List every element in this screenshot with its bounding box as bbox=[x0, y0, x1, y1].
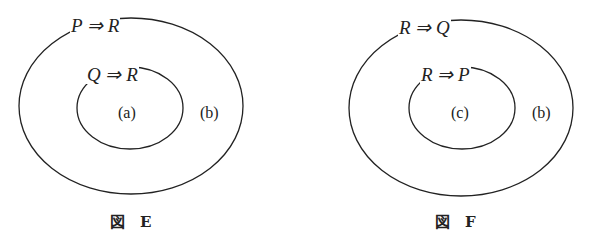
diagram-canvas bbox=[0, 0, 590, 246]
figure-e-inner-label: Q ⇒ R bbox=[86, 65, 139, 84]
figure-f-caption: 図 F bbox=[435, 215, 476, 230]
figure-f-inner-label: R ⇒ P bbox=[420, 65, 471, 84]
figure-f-region-b: (b) bbox=[532, 105, 551, 121]
figure-e-region-a: (a) bbox=[118, 105, 136, 121]
figure-f-outer-label: R ⇒ Q bbox=[398, 18, 451, 37]
figure-e-caption: 図 E bbox=[110, 215, 151, 230]
figure-f-region-c: (c) bbox=[451, 105, 469, 121]
figure-e-region-b: (b) bbox=[200, 105, 219, 121]
figure-e-outer-label: P ⇒ R bbox=[70, 16, 120, 35]
